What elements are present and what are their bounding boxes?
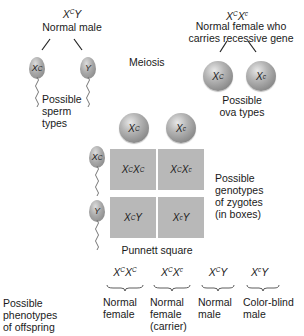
offspring-item: XCXC Normalfemale [103, 266, 147, 320]
phenotypes-label: Possiblephenotypesof offspring [3, 297, 57, 333]
punnett-cell: XCY [110, 197, 156, 238]
sperm-tail-icon [93, 220, 101, 252]
sperm-label: Possiblespermtypes [42, 93, 82, 129]
ovum-xlc-top: Xc [246, 61, 276, 91]
punnett-cell: XCXc [158, 149, 204, 190]
sperm-y-top: Y [80, 57, 96, 101]
female-label: Normal female whocarries recessive gene [178, 20, 304, 44]
ovum-xc-top: XC [203, 61, 233, 91]
sperm-tail-icon [93, 166, 101, 198]
brace-icon [198, 284, 238, 292]
offspring-item: XCXc Normalfemale(carrier) [150, 266, 194, 332]
ova-label: Possibleova types [207, 94, 277, 118]
punnett-caption: Punnett square [110, 244, 204, 256]
zygote-label: Possiblegenotypesof zygotes(in boxes) [215, 172, 263, 220]
sperm-head: XC [29, 57, 45, 79]
punnett-ovum-xlc: Xc [166, 113, 196, 143]
sperm-head: Y [89, 200, 105, 222]
offspring-item: XCY Normalmale [198, 266, 238, 320]
meiosis-label: Meiosis [129, 56, 165, 68]
sperm-head: Y [80, 57, 96, 79]
sperm-tail-icon [84, 77, 92, 109]
brace-icon [243, 284, 283, 292]
sperm-head: XC [89, 146, 105, 168]
punnett-cell: XcY [158, 197, 204, 238]
punnett-ovum-xc: XC [119, 113, 149, 143]
brace-icon [150, 284, 194, 292]
offspring-item: XcY Color-blindmale [243, 266, 303, 320]
punnett-sperm-xc: XC [89, 146, 105, 190]
punnett-cell: XCXC [110, 149, 156, 190]
brace-icon [103, 284, 147, 292]
sperm-tail-icon [33, 77, 41, 109]
punnett-sperm-y: Y [89, 200, 105, 244]
